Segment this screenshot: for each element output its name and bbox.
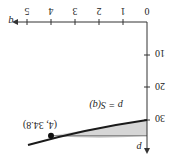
q-axis-label: q (9, 16, 14, 27)
y-tick-30: 30 (155, 113, 165, 124)
x-tick-1: 1 (121, 6, 126, 17)
diagram-canvas: 0 1 2 3 4 5 10 20 30 q p p = S(q) (4, 34… (0, 0, 170, 162)
supply-curve-diagram: 0 1 2 3 4 5 10 20 30 q p p = S(q) (4, 34… (0, 0, 170, 162)
x-tick-3: 3 (73, 6, 78, 17)
curve-label: p = S(q) (89, 99, 124, 111)
y-tick-10: 10 (155, 48, 165, 59)
x-tick-4: 4 (49, 6, 54, 17)
x-tick-2: 2 (97, 6, 102, 17)
p-axis-label: p (137, 142, 143, 153)
equilibrium-point (48, 133, 54, 139)
point-label: (4, 34.8) (23, 119, 57, 131)
p-axis-arrow-icon (144, 148, 150, 154)
x-tick-0: 0 (145, 6, 150, 17)
x-tick-5: 5 (25, 6, 30, 17)
x-ticks (27, 19, 150, 120)
y-tick-20: 20 (155, 81, 165, 92)
